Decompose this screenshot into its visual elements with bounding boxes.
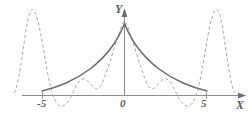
axes-group	[22, 8, 246, 99]
plot-figure: -5 0 5 X Y	[0, 0, 252, 118]
x-tick-label-neg5: -5	[37, 98, 46, 109]
y-axis-label: Y	[115, 3, 122, 15]
y-axis-up-arrow-icon	[122, 8, 128, 17]
x-axis-label: X	[236, 99, 244, 111]
x-tick-label-zero: 0	[120, 98, 126, 109]
x-tick-label-pos5: 5	[201, 98, 207, 109]
